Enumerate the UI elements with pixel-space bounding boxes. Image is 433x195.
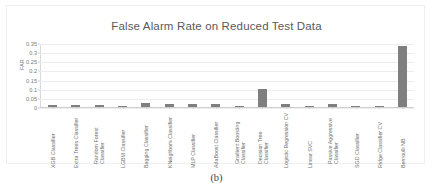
x-tick-mark [146, 107, 147, 109]
x-tick-mark [309, 107, 310, 109]
y-tick-label: 0.2 [29, 68, 37, 74]
bar-slot [111, 44, 134, 107]
x-tick-label: MLP Classifier [190, 110, 196, 168]
bar-slot [228, 44, 251, 107]
x-tick-label: Bagging Classifier [143, 110, 149, 168]
x-tick-label: Bernoulli NB [400, 110, 406, 168]
x-label-slot: AdaBoost Classifier [205, 110, 228, 168]
figure-caption: (b) [0, 172, 433, 183]
x-label-slot: Logistic Regression CV [275, 110, 298, 168]
x-label-slot: Decision Tree Classifier [251, 110, 274, 168]
bar-slot [251, 44, 274, 107]
x-tick-mark [53, 107, 54, 109]
x-tick-mark [286, 107, 287, 109]
bar-slot [204, 44, 227, 107]
x-tick-mark [402, 107, 403, 109]
y-tick-mark [38, 98, 40, 99]
bar[interactable] [398, 46, 407, 107]
x-label-slot: XGB Classifier [41, 110, 64, 168]
y-tick-label: 0.3 [29, 50, 37, 56]
bar-slot [88, 44, 111, 107]
x-tick-mark [379, 107, 380, 109]
bar-slot [367, 44, 390, 107]
gridline [40, 108, 414, 109]
x-tick-mark [262, 107, 263, 109]
x-label-slot: Bagging Classifier [135, 110, 158, 168]
x-tick-mark [76, 107, 77, 109]
y-tick-label: 0.25 [26, 59, 37, 65]
x-tick-label: KNeighbors Classifier [166, 110, 172, 168]
bar[interactable] [258, 89, 267, 107]
x-label-slot: Passive Aggressive Classifier [322, 110, 345, 168]
bars-group [41, 44, 414, 107]
x-tick-mark [169, 107, 170, 109]
bar-slot [321, 44, 344, 107]
x-tick-label: AdaBoost Classifier [213, 110, 219, 168]
x-tick-label: Linear SVC [307, 110, 313, 168]
x-tick-label: SGD Classifier [353, 110, 359, 168]
y-tick-mark [38, 108, 40, 109]
x-label-slot: Linear SVC [298, 110, 321, 168]
bar-slot [64, 44, 87, 107]
x-tick-label: Random Forest Classifier [93, 110, 105, 164]
x-tick-mark [332, 107, 333, 109]
y-tick-mark [38, 44, 40, 45]
x-label-slot: Gradient Boosting Classifier [228, 110, 251, 168]
x-tick-label: Ridge Classifier CV [377, 110, 383, 168]
y-tick-mark [38, 80, 40, 81]
x-tick-mark [356, 107, 357, 109]
bar-slot [274, 44, 297, 107]
bar-slot [297, 44, 320, 107]
x-tick-label: Logistic Regression CV [283, 110, 289, 168]
x-label-slot: Ridge Classifier CV [368, 110, 391, 168]
x-tick-mark [239, 107, 240, 109]
x-label-slot: Random Forest Classifier [88, 110, 111, 168]
y-tick-label: 0.35 [26, 41, 37, 47]
x-tick-label: LGBM Classifier [120, 110, 126, 168]
x-tick-mark [123, 107, 124, 109]
x-label-slot: MLP Classifier [181, 110, 204, 168]
y-tick-mark [38, 53, 40, 54]
y-tick-label: 0 [34, 105, 37, 111]
figure-panel: False Alarm Rate on Reduced Test Data FA… [0, 0, 433, 195]
y-axis-label: FAR [19, 59, 25, 70]
bar-slot [344, 44, 367, 107]
x-tick-mark [216, 107, 217, 109]
x-label-slot: LGBM Classifier [111, 110, 134, 168]
x-tick-mark [193, 107, 194, 109]
y-tick-label: 0.15 [26, 78, 37, 84]
bar-slot [158, 44, 181, 107]
bar-slot [134, 44, 157, 107]
x-label-slot: KNeighbors Classifier [158, 110, 181, 168]
x-tick-label: Gradient Boosting Classifier [233, 110, 245, 164]
y-tick-label: 0.1 [29, 87, 37, 93]
x-tick-label: XGB Classifier [50, 110, 56, 168]
plot-area: 00.050.10.150.20.250.30.35 [40, 44, 414, 108]
bar-slot [41, 44, 64, 107]
bar-slot [181, 44, 204, 107]
y-tick-mark [38, 71, 40, 72]
chart-title: False Alarm Rate on Reduced Test Data [7, 20, 426, 32]
x-tick-label: Passive Aggressive Classifier [327, 110, 339, 164]
x-axis-labels-group: XGB ClassifierExtra Trees ClassifierRand… [41, 110, 415, 168]
x-tick-label: Extra Trees Classifier [73, 110, 79, 168]
chart-container: False Alarm Rate on Reduced Test Data FA… [6, 5, 425, 164]
x-tick-mark [99, 107, 100, 109]
x-label-slot: Bernoulli NB [392, 110, 415, 168]
x-tick-label: Decision Tree Classifier [257, 110, 269, 164]
y-tick-mark [38, 62, 40, 63]
y-tick-mark [38, 89, 40, 90]
y-tick-label: 0.05 [26, 96, 37, 102]
bar-slot [391, 44, 414, 107]
x-label-slot: Extra Trees Classifier [64, 110, 87, 168]
x-label-slot: SGD Classifier [345, 110, 368, 168]
